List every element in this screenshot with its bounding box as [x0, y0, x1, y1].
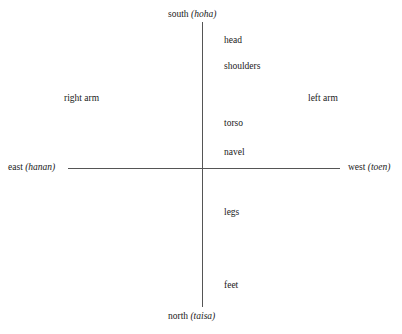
- body-part-label-feet: feet: [224, 281, 238, 291]
- horizontal-axis-line: [68, 168, 340, 169]
- direction-label-north-native: (taisa): [190, 311, 215, 321]
- body-part-label-right-arm: right arm: [64, 94, 99, 104]
- direction-label-west-native: (toen): [368, 162, 391, 172]
- direction-label-south-english: south: [168, 9, 191, 19]
- body-part-label-shoulders: shoulders: [224, 62, 260, 72]
- direction-body-diagram: south (hoha) north (taisa) east (hanan) …: [0, 0, 402, 334]
- direction-label-south: south (hoha): [168, 10, 216, 20]
- direction-label-east-native: (hanan): [25, 162, 55, 172]
- body-part-label-left-arm: left arm: [308, 94, 338, 104]
- direction-label-south-native: (hoha): [191, 9, 216, 19]
- body-part-label-torso: torso: [224, 119, 243, 129]
- body-part-label-legs: legs: [224, 208, 239, 218]
- direction-label-north-english: north: [168, 311, 190, 321]
- direction-label-north: north (taisa): [168, 312, 215, 322]
- direction-label-east-english: east: [8, 162, 25, 172]
- direction-label-west-english: west: [348, 162, 368, 172]
- body-part-label-head: head: [224, 36, 242, 46]
- direction-label-west: west (toen): [348, 163, 390, 173]
- vertical-axis-line: [202, 22, 203, 307]
- direction-label-east: east (hanan): [8, 163, 55, 173]
- body-part-label-navel: navel: [224, 148, 245, 158]
